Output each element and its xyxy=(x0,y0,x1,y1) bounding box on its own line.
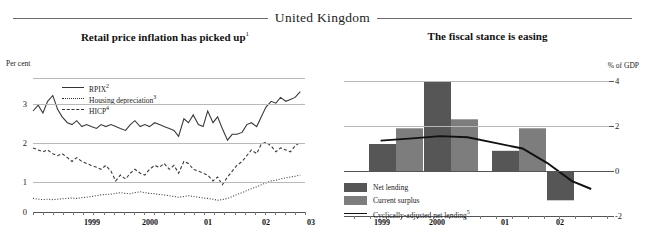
legend-label-net-lending: Net lending xyxy=(373,181,408,194)
right-gridline-2 xyxy=(344,126,609,127)
right-tickmark xyxy=(607,216,608,219)
left-chart-title-text: Retail price inflation has picked up xyxy=(81,31,246,43)
left-tickmark xyxy=(305,212,306,215)
right-tickmark xyxy=(496,216,497,219)
right-ytick-0: 0 xyxy=(615,166,629,176)
left-tickmark xyxy=(124,212,125,215)
left-tickmark xyxy=(224,212,225,215)
left-tickmark xyxy=(104,212,105,215)
left-gridline-2 xyxy=(33,143,305,144)
left-tickmark xyxy=(43,212,44,215)
legend-item-net-lending: Net lending xyxy=(344,181,470,194)
right-xtick-2000: 2000 xyxy=(429,218,445,227)
left-tickmark xyxy=(154,212,155,215)
left-tickmark xyxy=(184,212,185,215)
right-ytick-2: 2 xyxy=(615,121,629,131)
left-tickmark xyxy=(275,212,276,215)
right-gridline-0 xyxy=(344,171,609,172)
left-xtick-1999: 1999 xyxy=(84,218,100,227)
right-ytick-minus2: -2 xyxy=(615,211,629,221)
left-chart-panel: Retail price inflation has picked up1 Pe… xyxy=(0,26,330,239)
left-tickmark xyxy=(83,212,84,215)
bar-net-lending-01 xyxy=(492,151,519,171)
left-chart-svg xyxy=(33,78,305,212)
left-ytick-2: 2 xyxy=(9,138,27,148)
header-rule-right xyxy=(377,18,632,19)
right-tick-mark-minus2 xyxy=(609,216,614,217)
left-tickmark xyxy=(73,212,74,215)
left-plot-area: 3 2 1 0 xyxy=(33,78,305,212)
right-chart-panel: The fiscal stance is easing % of GDP 4 2… xyxy=(330,26,645,239)
left-ytick-0: 0 xyxy=(9,207,27,217)
left-tickmark xyxy=(174,212,175,215)
left-tickmark xyxy=(295,212,296,215)
series-hicp-path xyxy=(33,142,300,185)
right-tickmark xyxy=(575,216,576,219)
right-tickmark xyxy=(512,216,513,219)
right-tickmark xyxy=(528,216,529,219)
left-ytick-1: 1 xyxy=(9,177,27,187)
figure-page: United Kingdom Retail price inflation ha… xyxy=(0,0,645,239)
left-tickmark xyxy=(33,212,34,215)
left-xtick-02: 02 xyxy=(262,218,270,227)
left-tickmark xyxy=(265,212,266,215)
left-tickmark xyxy=(134,212,135,215)
right-xtick-01: 01 xyxy=(501,218,509,227)
right-tick-mark-2 xyxy=(609,126,614,127)
left-tickmark xyxy=(255,212,256,215)
right-xtick-1999: 1999 xyxy=(374,218,390,227)
legend-item-cyclically-adjusted: Cyclically-adjusted net lending5 xyxy=(344,207,470,220)
header-rule-left xyxy=(13,18,268,19)
bar-net-lending-1999 xyxy=(369,144,396,171)
right-tickmark xyxy=(480,216,481,219)
left-tickmark xyxy=(194,212,195,215)
right-tick-mark-4 xyxy=(609,81,614,82)
bar-current-surplus-1999 xyxy=(396,128,423,171)
left-tickmark xyxy=(245,212,246,215)
bar-net-lending-02 xyxy=(547,171,574,200)
right-chart-legend: Net lending Current surplus Cyclically-a… xyxy=(344,181,470,220)
bar-current-surplus-2000 xyxy=(451,119,478,171)
legend-key-cyclically-adjusted-line xyxy=(344,213,367,214)
left-tickmark xyxy=(114,212,115,215)
left-tickmark xyxy=(93,212,94,215)
left-tickmark xyxy=(214,212,215,215)
series-rpix-path xyxy=(33,92,300,141)
left-xtick-03: 03 xyxy=(307,218,315,227)
left-chart-title: Retail price inflation has picked up1 xyxy=(0,30,330,43)
right-tickmark xyxy=(544,216,545,219)
legend-swatch-net-lending xyxy=(344,183,367,192)
left-ytick-3: 3 xyxy=(9,99,27,109)
left-chart-title-footnote: 1 xyxy=(246,30,250,38)
right-y-axis-label: % of GDP xyxy=(608,61,639,70)
right-ytick-4: 4 xyxy=(615,76,629,86)
left-tickmark xyxy=(285,212,286,215)
left-tickmark xyxy=(204,212,205,215)
left-tickmark xyxy=(164,212,165,215)
country-title: United Kingdom xyxy=(275,10,370,26)
left-xtick-2000: 2000 xyxy=(142,218,158,227)
left-gridline-3 xyxy=(33,104,305,105)
left-tickmark xyxy=(235,212,236,215)
page-header: United Kingdom xyxy=(0,8,645,28)
right-chart-title: The fiscal stance is easing xyxy=(330,30,645,42)
left-tickmark xyxy=(63,212,64,215)
left-gridline-top xyxy=(33,78,305,79)
left-gridline-1 xyxy=(33,182,305,183)
series-housing-depreciation-path xyxy=(33,175,300,200)
right-xtick-02: 02 xyxy=(556,218,564,227)
right-tickmark xyxy=(591,216,592,219)
left-tickmark xyxy=(53,212,54,215)
left-xtick-01: 01 xyxy=(204,218,212,227)
left-y-axis-label: Per cent xyxy=(6,59,30,68)
left-tickmark xyxy=(144,212,145,215)
legend-swatch-current-surplus xyxy=(344,196,367,205)
right-gridline-4 xyxy=(344,81,609,82)
right-tick-mark-0 xyxy=(609,171,614,172)
